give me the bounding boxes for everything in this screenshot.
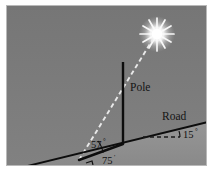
figure-panel: Pole Road 57 ° 15 ° 75 ' bbox=[6, 5, 207, 166]
figure-root: Pole Road 57 ° 15 ° 75 ' bbox=[0, 0, 213, 176]
angle-15-value: 15 bbox=[183, 129, 194, 140]
sun-core bbox=[152, 29, 162, 39]
angle-57-value: 57 bbox=[91, 139, 102, 150]
angle-15-degree-symbol: ° bbox=[195, 127, 198, 135]
base-distance-value: 75 bbox=[102, 155, 113, 165]
figure-canvas: Pole Road 57 ° 15 ° 75 ' bbox=[7, 6, 206, 165]
base-distance-unit-symbol: ' bbox=[114, 153, 115, 161]
road-label: Road bbox=[162, 110, 187, 122]
pole-label: Pole bbox=[130, 81, 150, 93]
angle-57-degree-symbol: ° bbox=[103, 137, 106, 145]
